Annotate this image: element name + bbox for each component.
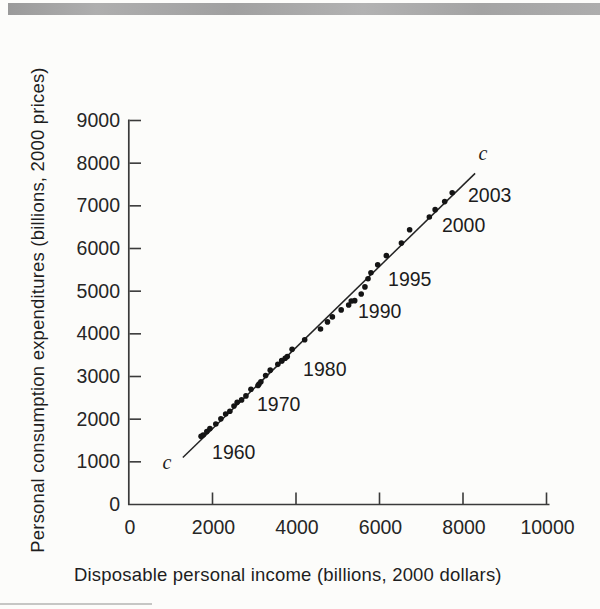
y-tick-label-6000: 6000 [77,237,121,259]
year-label-2003: 2003 [468,184,511,206]
x-tick-label-10000: 10000 [520,516,574,538]
x-tick-label-4000: 4000 [275,516,319,538]
data-point-1970 [239,397,245,403]
year-label-1990: 1990 [358,300,402,322]
data-point-1983 [289,346,295,352]
data-point-1975 [258,379,264,385]
line-label-c-upper: c [479,142,488,164]
y-tick-label-4000: 4000 [77,322,121,344]
data-point-1991 [352,298,358,304]
data-point-2000 [427,214,433,220]
data-point-1985 [318,326,324,332]
y-tick-label-9000: 9000 [77,109,121,131]
data-point-1986 [325,319,331,325]
data-point-1984 [302,337,308,343]
y-tick-label-3000: 3000 [77,365,121,387]
line-label-c-lower: c [163,451,172,473]
data-point-1995 [368,270,374,276]
data-point-1994 [365,276,371,282]
y-tick-label-2000: 2000 [77,408,121,430]
data-point-1977 [267,367,273,373]
data-point-1987 [330,314,336,320]
data-point-1992 [358,291,364,297]
year-label-1970: 1970 [257,393,301,415]
data-point-1965 [218,416,224,422]
data-point-1967 [227,408,233,414]
x-tick-label-0: 0 [125,516,136,538]
data-point-1972 [248,386,254,392]
data-point-1971 [243,393,249,399]
axes-lines [129,120,550,505]
data-point-1996 [375,262,381,268]
x-tick-label-6000: 6000 [359,516,403,538]
y-tick-label-8000: 8000 [77,152,121,174]
data-point-2003 [449,190,455,196]
x-axis-title: Disposable personal income (billions, 20… [74,564,502,586]
data-point-1976 [263,373,269,379]
year-label-2000: 2000 [442,214,486,236]
scatter-chart: 0100020003000400050006000700080009000020… [0,0,600,609]
y-tick-label-1000: 1000 [77,450,121,472]
data-point-1988 [338,307,344,313]
data-point-1982 [284,354,290,360]
data-point-1998 [399,240,405,246]
data-point-1997 [384,253,390,259]
data-point-1963 [207,426,213,432]
bottom-partial-rule [0,603,152,605]
y-tick-label-5000: 5000 [77,280,121,302]
x-tick-label-2000: 2000 [192,516,236,538]
year-label-1960: 1960 [212,441,256,463]
y-tick-label-0: 0 [109,493,120,515]
year-label-1995: 1995 [388,268,432,290]
data-point-2002 [442,199,448,205]
year-label-1980: 1980 [303,358,347,380]
data-point-2001 [432,207,438,213]
data-point-1993 [362,284,368,290]
y-tick-label-7000: 7000 [77,194,121,216]
data-point-1964 [213,421,219,427]
x-tick-label-8000: 8000 [442,516,486,538]
data-point-1999 [407,227,413,233]
